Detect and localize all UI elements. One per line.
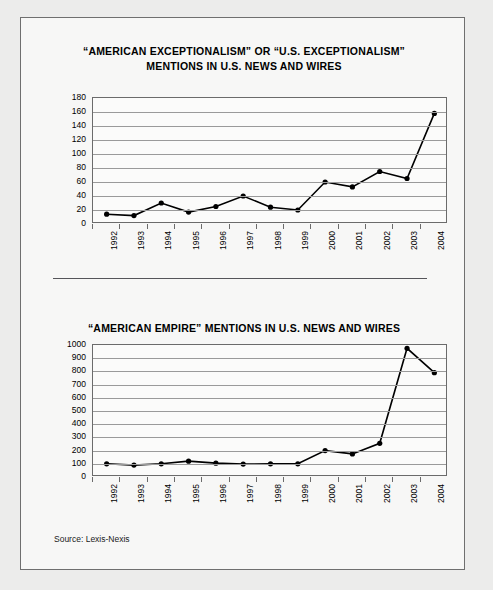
gridline [93,126,446,127]
series-polyline [107,348,435,465]
gridline [93,398,446,399]
gridline [93,182,446,183]
y-tick-label: 120 [72,135,86,144]
x-tick-mark [147,224,148,229]
chart2-plot-area [92,344,447,476]
x-tick-label: 2000 [328,484,337,503]
chart1-title-line1: “AMERICAN EXCEPTIONALISM” OR “U.S. EXCEP… [39,44,449,59]
x-tick-label: 2004 [437,484,446,503]
x-tick-mark [283,477,284,482]
data-point-marker [131,213,136,218]
x-tick-mark [174,224,175,229]
chart-exceptionalism: 020406080100120140160180 199219931994199… [55,97,451,269]
x-tick-mark [201,224,202,229]
x-tick-mark [365,224,366,229]
x-tick-mark [283,224,284,229]
x-tick-mark [392,224,393,229]
x-tick-label: 2000 [328,231,337,250]
x-tick-label: 1992 [110,231,119,250]
gridline [93,196,446,197]
section-divider [53,278,427,279]
y-tick-label: 1000 [67,340,86,349]
x-tick-mark [174,477,175,482]
x-tick-mark [119,224,120,229]
data-point-marker [213,204,218,209]
x-tick-label: 1996 [219,484,228,503]
y-tick-label: 900 [72,353,86,362]
y-tick-label: 40 [77,191,86,200]
chart1-title: “AMERICAN EXCEPTIONALISM” OR “U.S. EXCEP… [39,44,449,74]
chart-empire: 01002003004005006007008009001000 1992199… [55,344,451,522]
y-tick-label: 80 [77,163,86,172]
x-tick-label: 2002 [383,484,392,503]
x-tick-label: 2003 [410,484,419,503]
x-tick-label: 1994 [164,231,173,250]
gridline [93,411,446,412]
chart2-title: “AMERICAN EMPIRE” MENTIONS IN U.S. NEWS … [39,321,449,336]
x-tick-mark [229,224,230,229]
data-point-marker [377,441,382,446]
x-tick-label: 1998 [274,231,283,250]
x-tick-label: 1999 [301,231,310,250]
x-tick-mark [256,224,257,229]
gridline [93,358,446,359]
x-tick-mark [420,224,421,229]
x-tick-label: 2002 [383,231,392,250]
data-point-marker [377,169,382,174]
x-tick-mark [92,224,93,229]
x-tick-label: 1993 [137,484,146,503]
gridline [93,464,446,465]
chart1-plot-area [92,97,447,223]
data-point-marker [404,176,409,181]
y-tick-label: 400 [72,419,86,428]
y-tick-label: 160 [72,107,86,116]
y-tick-label: 180 [72,93,86,102]
y-tick-label: 140 [72,121,86,130]
data-point-marker [104,212,109,217]
x-tick-mark [310,477,311,482]
poster-frame: “AMERICAN EXCEPTIONALISM” OR “U.S. EXCEP… [20,17,465,570]
x-tick-label: 1994 [164,484,173,503]
x-tick-label: 2001 [355,231,364,250]
x-tick-label: 1995 [192,484,201,503]
x-tick-mark [201,477,202,482]
gridline [93,168,446,169]
y-tick-label: 100 [72,459,86,468]
chart2-x-axis: 1992199319941995199619971998199920002001… [92,477,447,521]
x-tick-mark [338,224,339,229]
x-tick-label: 1998 [274,484,283,503]
y-tick-label: 500 [72,406,86,415]
x-tick-label: 1999 [301,484,310,503]
data-point-marker [404,346,409,351]
y-tick-label: 20 [77,205,86,214]
gridline [93,437,446,438]
x-tick-label: 2004 [437,231,446,250]
y-tick-label: 800 [72,366,86,375]
x-tick-label: 1997 [246,484,255,503]
y-tick-label: 60 [77,177,86,186]
x-tick-label: 1992 [110,484,119,503]
gridline [93,451,446,452]
x-tick-mark [310,224,311,229]
chart1-x-axis: 1992199319941995199619971998199920002001… [92,224,447,268]
y-tick-label: 100 [72,149,86,158]
y-tick-label: 600 [72,393,86,402]
x-tick-mark [229,477,230,482]
x-tick-mark [92,477,93,482]
x-tick-mark [256,477,257,482]
chart2-title-line1: “AMERICAN EMPIRE” MENTIONS IN U.S. NEWS … [39,321,449,336]
x-tick-mark [420,477,421,482]
data-point-marker [159,200,164,205]
source-note: Source: Lexis-Nexis [54,534,130,544]
data-point-marker [350,451,355,456]
gridline [93,210,446,211]
chart1-series-line [93,98,446,222]
y-tick-label: 0 [81,472,86,481]
gridline [93,371,446,372]
x-tick-mark [119,477,120,482]
x-tick-label: 2003 [410,231,419,250]
gridline [93,424,446,425]
x-tick-label: 1995 [192,231,201,250]
gridline [93,112,446,113]
y-tick-label: 300 [72,432,86,441]
